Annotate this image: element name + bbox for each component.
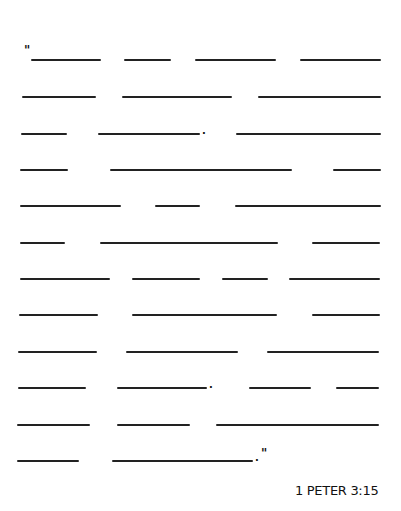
fill-in-blank[interactable] xyxy=(333,169,381,171)
fill-in-blank[interactable] xyxy=(117,424,190,426)
period-mark: . xyxy=(209,380,213,390)
fill-in-blank[interactable] xyxy=(17,460,79,462)
fill-in-blank[interactable] xyxy=(20,205,121,207)
fill-in-blank[interactable] xyxy=(124,59,171,61)
fill-in-blank[interactable] xyxy=(20,169,68,171)
scripture-reference: 1 PETER 3:15 xyxy=(295,483,378,498)
fill-in-blank[interactable] xyxy=(222,278,268,280)
fill-in-blank[interactable] xyxy=(126,351,238,353)
fill-in-blank[interactable] xyxy=(100,242,278,244)
fill-in-blank[interactable] xyxy=(236,133,381,135)
fill-in-blank[interactable] xyxy=(18,351,97,353)
fill-in-blank[interactable] xyxy=(20,278,110,280)
fill-in-blank[interactable] xyxy=(98,133,200,135)
fill-in-blank[interactable] xyxy=(267,351,379,353)
fill-in-blank[interactable] xyxy=(289,278,380,280)
fill-in-blank[interactable] xyxy=(18,387,86,389)
fill-in-blank[interactable] xyxy=(216,424,379,426)
fill-in-blank[interactable] xyxy=(122,96,232,98)
fill-in-blank[interactable] xyxy=(258,96,381,98)
fill-in-blank[interactable] xyxy=(17,424,90,426)
fill-in-blank[interactable] xyxy=(21,133,67,135)
fill-in-blank[interactable] xyxy=(155,205,200,207)
period-mark: . xyxy=(255,453,259,463)
fill-in-blank[interactable] xyxy=(132,314,277,316)
fill-in-blank[interactable] xyxy=(312,314,380,316)
fill-in-blank[interactable] xyxy=(19,314,98,316)
fill-in-blank[interactable] xyxy=(31,59,101,61)
period-mark: . xyxy=(202,126,206,136)
fill-in-blank[interactable] xyxy=(336,387,379,389)
fill-in-blank[interactable] xyxy=(300,59,381,61)
fill-in-blank[interactable] xyxy=(22,96,96,98)
closing-quote: " xyxy=(261,447,267,459)
opening-quote: " xyxy=(24,44,30,56)
fill-in-blank[interactable] xyxy=(249,387,311,389)
fill-in-blank[interactable] xyxy=(110,169,292,171)
fill-in-blank[interactable] xyxy=(195,59,276,61)
worksheet-page: " ... " 1 PETER 3:15 xyxy=(0,0,401,511)
fill-in-blank[interactable] xyxy=(20,242,65,244)
fill-in-blank[interactable] xyxy=(235,205,381,207)
fill-in-blank[interactable] xyxy=(132,278,200,280)
fill-in-blank[interactable] xyxy=(312,242,380,244)
fill-in-blank[interactable] xyxy=(112,460,253,462)
fill-in-blank[interactable] xyxy=(117,387,207,389)
